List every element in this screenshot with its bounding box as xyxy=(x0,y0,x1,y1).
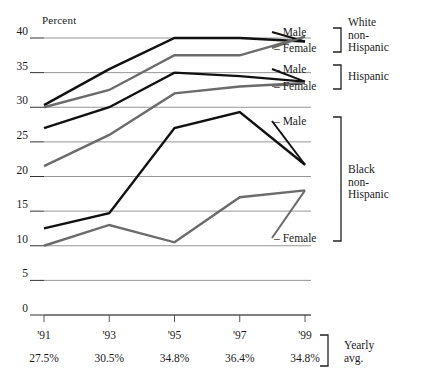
yearly-avg-caption-line1: Yearly xyxy=(344,339,374,352)
series-line-2 xyxy=(44,73,305,128)
y-tick-label: 5 xyxy=(6,267,28,279)
legend-group-black-line1: Black xyxy=(348,163,389,176)
yearly-avg-caption-line2: avg. xyxy=(344,352,374,365)
legend-brackets xyxy=(320,28,341,366)
x-tick-label: '95 xyxy=(155,329,195,341)
yearly-average-value: 30.5% xyxy=(83,352,135,364)
legend-group-white-line2: non- xyxy=(348,29,389,42)
yearly-average-value: 34.8% xyxy=(149,352,201,364)
legend-group-black-line3: Hispanic xyxy=(348,188,389,201)
legend-group-black-line2: non- xyxy=(348,176,389,189)
bracket-white xyxy=(333,28,341,52)
y-tick-label: 30 xyxy=(6,94,28,106)
bracket-hispanic xyxy=(333,65,341,89)
yearly-avg-caption: Yearly avg. xyxy=(344,339,374,364)
legend-black-male-label: – Male xyxy=(274,115,306,127)
legend-hispanic-male-label: – Male xyxy=(274,63,306,75)
series-leader-5 xyxy=(272,190,305,238)
yearly-average-value: 27.5% xyxy=(18,352,70,364)
y-tick-label: 35 xyxy=(6,60,28,72)
yearly-average-value: 36.4% xyxy=(214,352,266,364)
y-tick-label: 15 xyxy=(6,198,28,210)
series-line-3 xyxy=(44,83,305,166)
y-tick-label: 0 xyxy=(6,302,28,314)
legend-black-female-label: – Female xyxy=(274,232,316,244)
legend-group-hispanic-line1: Hispanic xyxy=(348,70,389,83)
series-lines xyxy=(44,32,305,246)
x-tick-label: '93 xyxy=(89,329,129,341)
legend-white-female-label: – Female xyxy=(274,42,316,54)
x-tick-label: '91 xyxy=(24,329,64,341)
x-tick-label: '97 xyxy=(220,329,260,341)
legend-group-black: Black non- Hispanic xyxy=(348,163,389,201)
legend-white-male-label: – Male xyxy=(274,26,306,38)
y-tick-label: 10 xyxy=(6,233,28,245)
y-tick-label: 20 xyxy=(6,164,28,176)
legend-group-white-line3: Hispanic xyxy=(348,41,389,54)
x-tick-label: '99 xyxy=(285,329,325,341)
y-tick-label: 25 xyxy=(6,129,28,141)
y-tick-label: 40 xyxy=(6,25,28,37)
legend-group-white: White non- Hispanic xyxy=(348,16,389,54)
legend-hispanic-female-label: – Female xyxy=(274,80,316,92)
legend-group-hispanic: Hispanic xyxy=(348,70,389,83)
legend-group-white-line1: White xyxy=(348,16,389,29)
line-chart: Percent 4035302520151050 '91'93'95'97'99… xyxy=(0,0,427,376)
x-axis xyxy=(44,315,311,322)
series-line-5 xyxy=(44,190,305,245)
yearly-average-value: 34.8% xyxy=(279,352,331,364)
bracket-black xyxy=(333,117,341,241)
